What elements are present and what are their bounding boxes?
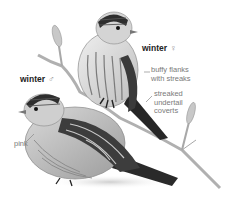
female-label: winter♀ [142, 44, 177, 53]
callout-buffy-flanks: buffy flanks with streaks [151, 66, 191, 83]
male-symbol-icon: ♂ [48, 74, 55, 84]
bird-illustration: winter♀ winter♂ buffy flanks with streak… [0, 0, 229, 198]
callout-text: coverts [154, 107, 183, 116]
female-symbol-icon: ♀ [170, 43, 177, 53]
callout-text: with streaks [151, 75, 191, 84]
callout-text: pink [14, 140, 28, 149]
female-label-text: winter [142, 43, 167, 53]
redpoll-illustration [0, 0, 229, 198]
male-label: winter♂ [20, 75, 55, 84]
male-label-text: winter [20, 74, 45, 84]
callout-undertail-coverts: streaked undertail coverts [154, 90, 183, 116]
callout-pink: pink [14, 140, 28, 149]
